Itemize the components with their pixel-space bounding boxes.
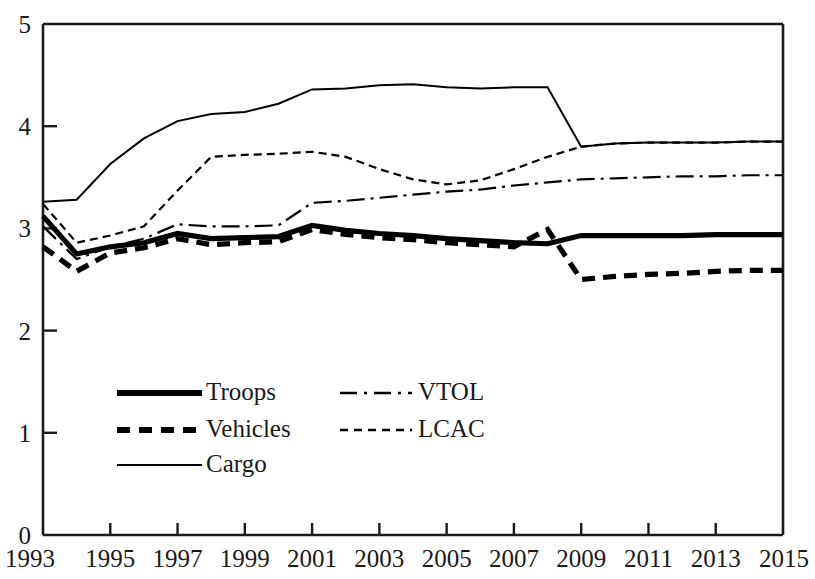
- x-tick-label-2005: 2005: [422, 545, 472, 572]
- x-tick-label-2011: 2011: [624, 545, 673, 572]
- legend-label-vtol: VTOL: [418, 378, 484, 405]
- series-line-troops: [43, 216, 783, 254]
- x-axis-ticks: [110, 523, 715, 535]
- y-axis-ticks: [43, 126, 57, 433]
- legend-item-troops[interactable]: Troops: [117, 378, 276, 405]
- legend-label-troops: Troops: [206, 378, 276, 405]
- legend-item-vtol[interactable]: VTOL: [340, 378, 484, 405]
- y-tick-label-5: 5: [19, 11, 32, 38]
- x-tick-label-2013: 2013: [691, 545, 741, 572]
- y-tick-label-3: 3: [19, 215, 32, 242]
- x-tick-label-1995: 1995: [85, 545, 135, 572]
- y-axis-tick-labels: 012345: [19, 11, 32, 549]
- chart-legend: TroopsVehiclesCargoVTOLLCAC: [117, 378, 485, 477]
- x-tick-label-1997: 1997: [153, 545, 203, 572]
- legend-label-cargo: Cargo: [206, 450, 267, 477]
- x-tick-label-1999: 1999: [220, 545, 270, 572]
- legend-item-vehicles[interactable]: Vehicles: [117, 415, 291, 442]
- legend-label-lcac: LCAC: [418, 415, 485, 442]
- series-layer: [43, 84, 783, 279]
- x-tick-label-2009: 2009: [556, 545, 606, 572]
- chart-canvas: 012345 199319951997199920012003200520072…: [0, 0, 815, 579]
- y-tick-label-1: 1: [19, 420, 32, 447]
- x-tick-label-1993: 1993: [5, 545, 55, 572]
- legend-item-lcac[interactable]: LCAC: [340, 415, 485, 442]
- legend-item-cargo[interactable]: Cargo: [117, 450, 267, 477]
- series-line-cargo: [43, 84, 783, 202]
- x-tick-label-2015: 2015: [759, 545, 809, 572]
- x-tick-label-2003: 2003: [354, 545, 404, 572]
- x-tick-label-2001: 2001: [287, 545, 337, 572]
- y-tick-label-2: 2: [19, 318, 32, 345]
- y-tick-label-4: 4: [19, 113, 32, 140]
- line-chart: 012345 199319951997199920012003200520072…: [0, 0, 815, 579]
- x-tick-label-2007: 2007: [489, 545, 539, 572]
- x-axis-tick-labels: 1993199519971999200120032005200720092011…: [5, 545, 809, 572]
- legend-label-vehicles: Vehicles: [206, 415, 291, 442]
- series-line-lcac: [43, 142, 783, 243]
